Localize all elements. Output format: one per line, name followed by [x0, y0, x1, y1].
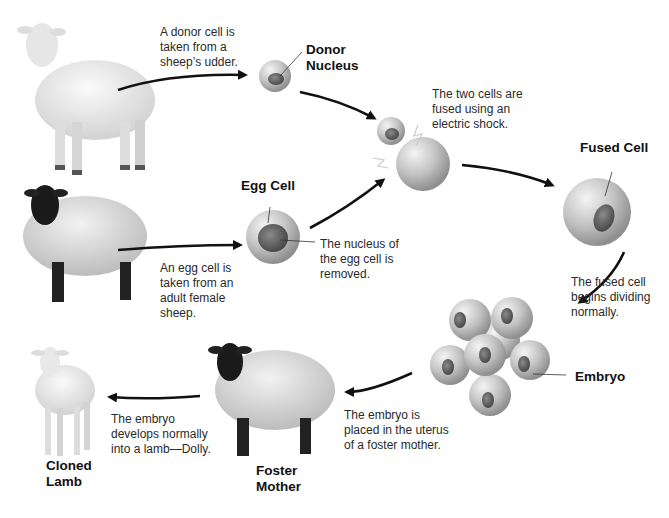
foster-mother-label: Foster Mother — [256, 463, 301, 495]
embryo-icon — [430, 297, 566, 416]
fused-cell-icon — [563, 172, 631, 246]
arrow-foster-to-lamb — [110, 396, 200, 398]
egg-cell-icon — [246, 207, 315, 264]
step-donor-cell-text: A donor cell is taken from a sheep’s udd… — [160, 25, 238, 70]
cloned-lamb-icon — [31, 347, 95, 456]
cloned-lamb-label: Cloned Lamb — [46, 458, 92, 490]
arrow-fusion-to-fused — [462, 165, 552, 185]
step-fusion-text: The two cells are fused using an electri… — [432, 87, 523, 132]
donor-cell-icon — [259, 52, 302, 92]
arrow-egg-to-fusion — [310, 180, 383, 228]
donor-nucleus-label: Donor Nucleus — [306, 42, 359, 74]
step-develops-text: The embryo develops normally into a lamb… — [111, 412, 211, 457]
donor-sheep-icon — [17, 23, 155, 175]
embryo-label: Embryo — [575, 369, 625, 385]
egg-cell-label: Egg Cell — [241, 178, 295, 194]
step-egg-cell-text: An egg cell is taken from an adult femal… — [160, 261, 233, 321]
foster-mother-sheep-icon — [208, 343, 335, 456]
step-dividing-text: The fused cell begins dividing normally. — [571, 275, 650, 320]
step-implant-text: The embryo is placed in the uterus of a … — [344, 408, 449, 453]
step-nucleus-removed-text: The nucleus of the egg cell is removed. — [320, 237, 399, 282]
egg-donor-sheep-icon — [23, 185, 147, 302]
arrow-nucleus-to-fusion — [300, 92, 374, 118]
fused-cell-label: Fused Cell — [580, 140, 648, 156]
arrow-embryo-to-foster — [347, 373, 412, 392]
